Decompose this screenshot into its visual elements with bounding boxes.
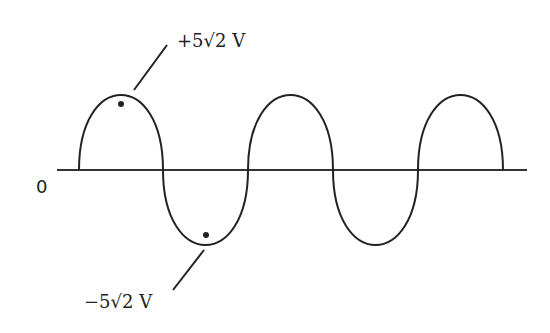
- peak-leader-line: [134, 45, 167, 90]
- trough-label: −5√2 V: [84, 291, 153, 312]
- trough-point: [203, 232, 209, 238]
- trough-leader-line: [173, 250, 204, 290]
- peak-label: +5√2 V: [177, 30, 246, 51]
- origin-label: 0: [36, 176, 47, 197]
- waveform-diagram: 0 +5√2 V −5√2 V: [0, 0, 550, 333]
- peak-point: [118, 101, 124, 107]
